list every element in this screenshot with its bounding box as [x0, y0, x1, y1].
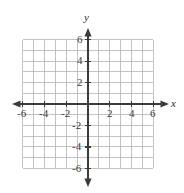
x-tick-label--6: -6 [17, 108, 26, 119]
y-tick-label-4: 4 [77, 55, 83, 66]
y-tick-label--4: -4 [72, 141, 81, 152]
y-axis-label: y [84, 12, 89, 23]
x-axis-right-arrowhead [161, 100, 170, 107]
x-tick-label--2: -2 [61, 108, 70, 119]
x-axis-label: x [171, 98, 176, 109]
y-axis-top-arrowhead [84, 28, 91, 37]
y-tick-label--2: -2 [72, 120, 81, 131]
x-tick-label--4: -4 [39, 108, 48, 119]
y-axis-bottom-arrowhead [84, 179, 91, 188]
coordinate-plane-figure: -6 -4 -2 2 4 6 6 4 2 -2 -4 -6 y x [0, 0, 184, 193]
x-tick-label-4: 4 [129, 108, 135, 119]
x-tick-label-2: 2 [107, 108, 113, 119]
x-tick-label-6: 6 [150, 108, 156, 119]
coordinate-grid-svg [0, 0, 184, 193]
y-axis [84, 28, 91, 187]
y-tick-label-2: 2 [77, 77, 83, 88]
y-tick-label--6: -6 [72, 163, 81, 174]
x-axis [12, 100, 169, 107]
y-tick-label-6: 6 [77, 34, 83, 45]
